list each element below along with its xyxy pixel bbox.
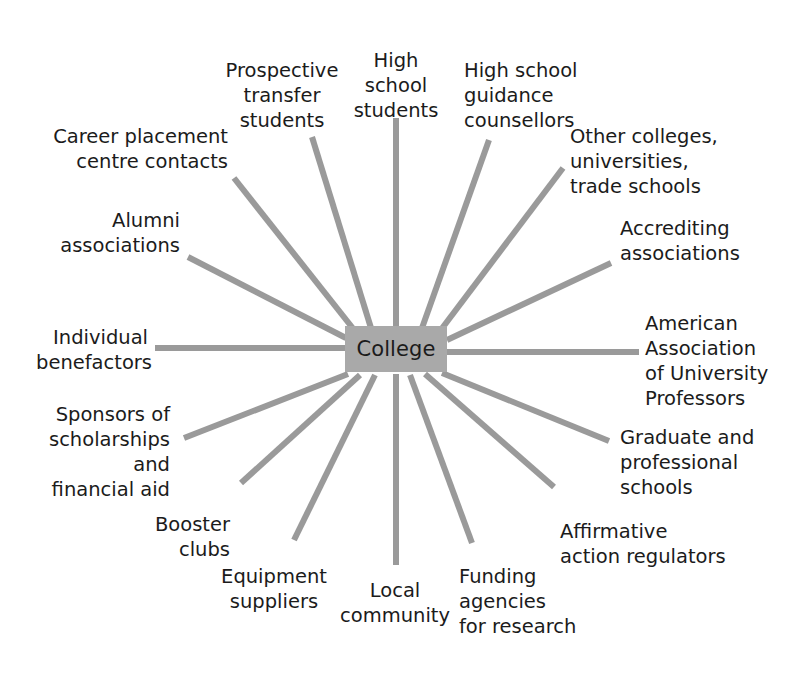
spoke-line-alumni-associations [188,257,346,338]
node-label-sponsors-of-scholarships[interactable]: Sponsors of scholarships and financial a… [40,402,170,502]
node-label-individual-benefactors[interactable]: Individual benefactors [36,325,148,375]
node-label-affirmative-action-regulators[interactable]: Affirmative action regulators [560,519,750,569]
node-label-equipment-suppliers[interactable]: Equipment suppliers [210,564,338,614]
node-label-high-school-guidance-counsellors[interactable]: High school guidance counsellors [464,58,614,133]
node-label-funding-agencies-for-research[interactable]: Funding agencies for research [459,564,599,639]
hub-node-college[interactable]: College [345,326,447,372]
node-label-booster-clubs[interactable]: Booster clubs [130,512,230,562]
spoke-line-career-placement-centre-contacts [234,178,355,331]
hub-node-label: College [356,337,435,361]
node-label-american-association-of-university-professors[interactable]: American Association of University Profe… [645,311,795,411]
node-label-other-colleges-universities-trade-schools[interactable]: Other colleges, universities, trade scho… [570,124,750,199]
node-label-local-community[interactable]: Local community [335,578,455,628]
node-label-accrediting-associations[interactable]: Accrediting associations [620,216,760,266]
node-label-graduate-and-professional-schools[interactable]: Graduate and professional schools [620,425,770,500]
spoke-line-high-school-guidance-counsellors [422,140,489,328]
spoke-line-funding-agencies-for-research [410,375,472,543]
stakeholder-diagram: College High school studentsProspective … [0,0,796,674]
spoke-line-prospective-transfer-students [312,137,371,328]
node-label-alumni-associations[interactable]: Alumni associations [48,208,180,258]
spoke-line-accrediting-associations [447,263,611,340]
node-label-career-placement-centre-contacts[interactable]: Career placement centre contacts [38,124,228,174]
node-label-prospective-transfer-students[interactable]: Prospective transfer students [212,58,352,133]
spoke-line-other-colleges-universities-trade-schools [440,168,563,331]
